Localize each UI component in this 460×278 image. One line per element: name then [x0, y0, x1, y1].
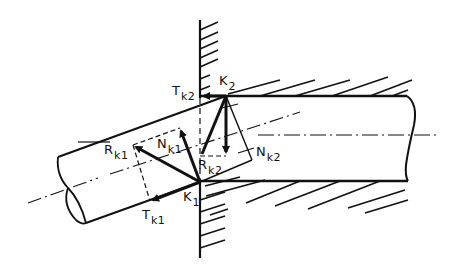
label-t-k1: Tk1 — [142, 208, 165, 221]
wall — [200, 20, 225, 258]
label-r-k1: Rk1 — [104, 143, 128, 156]
label-t-k2: Tk2 — [172, 84, 195, 97]
label-k2: K2 — [219, 74, 236, 87]
wall-hatching-upper — [200, 22, 218, 90]
tilted-shaft — [28, 96, 300, 224]
label-n-k2: Nk2 — [256, 145, 281, 158]
horizontal-shaft — [200, 96, 438, 181]
label-k1: K1 — [183, 190, 200, 203]
force-diagram — [0, 0, 460, 278]
bore-hatching — [205, 77, 412, 215]
diagram-canvas: Tk2 K2 Rk1 Nk1 Rk2 Nk2 K1 Tk1 — [0, 0, 460, 278]
wall-hatching-lower — [200, 192, 225, 248]
label-r-k2: Rk2 — [198, 158, 222, 171]
force-r-k2-arrow — [202, 96, 226, 154]
label-n-k1: Nk1 — [157, 137, 182, 150]
